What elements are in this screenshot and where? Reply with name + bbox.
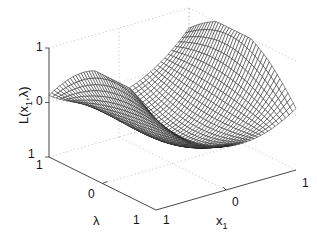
x1-axis-label-main: x	[216, 213, 223, 228]
x1-tick-right: 1	[302, 177, 309, 189]
surface-mesh	[49, 22, 296, 148]
lambda-axis-label: λ	[93, 214, 100, 227]
z-tick-top: 1	[36, 41, 43, 53]
z-axis-label-main: L(x	[16, 106, 31, 124]
lambda-tick-left: 1	[36, 159, 43, 171]
z-axis-label-tail: ,λ)	[16, 86, 31, 100]
surface-plot	[0, 0, 317, 246]
z-tick-mid: 0	[36, 95, 43, 107]
z-axis-label: L(x1,λ)	[17, 86, 30, 124]
x1-tick-left: 1	[163, 214, 170, 226]
lambda-tick-right: 1	[133, 214, 140, 226]
x1-axis-label: x1	[216, 214, 228, 227]
x1-tick-mid: 0	[232, 196, 239, 208]
z-axis-label-sub: 1	[24, 101, 34, 106]
lambda-tick-mid: 0	[88, 188, 95, 200]
z-tick-bottom: 1	[28, 148, 35, 160]
x1-axis-label-sub: 1	[223, 221, 228, 231]
